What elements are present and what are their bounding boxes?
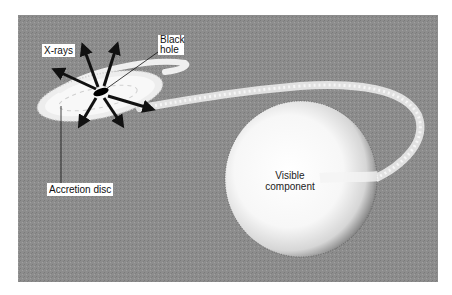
visible-component-label-line2: component [262, 181, 318, 192]
black-hole-label-line2: hole [160, 45, 182, 55]
visible-component-label-line1: Visible [262, 170, 318, 181]
accretion-disc-label-text: Accretion disc [49, 184, 111, 195]
visible-component-label: Visible component [262, 170, 318, 192]
accretion-disc-label: Accretion disc [47, 183, 113, 196]
xrays-label: X-rays [42, 44, 75, 57]
xrays-label-text: X-rays [44, 45, 73, 56]
black-hole-label: Black hole [158, 35, 184, 55]
background-panel [18, 15, 438, 282]
